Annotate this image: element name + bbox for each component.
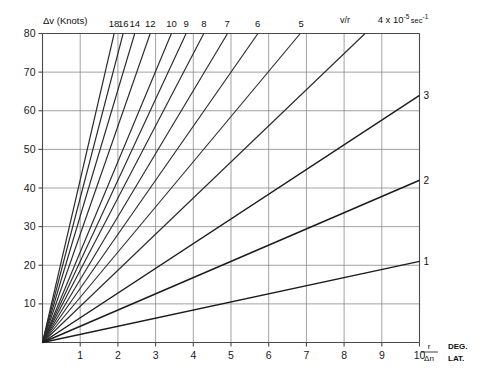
units-suffix: sec bbox=[411, 16, 423, 25]
top-line-label-12: 12 bbox=[145, 18, 156, 29]
x-tick-label: 9 bbox=[379, 349, 385, 361]
top-line-label-7: 7 bbox=[225, 18, 230, 29]
top-line-label-16: 16 bbox=[118, 18, 129, 29]
right-line-label-1: 1 bbox=[424, 256, 430, 267]
x-tick-label: 4 bbox=[190, 349, 196, 361]
y-tick-label: 50 bbox=[24, 143, 36, 155]
top-line-label-8: 8 bbox=[201, 18, 206, 29]
y-tick-label: 60 bbox=[24, 104, 36, 116]
x-axis-symbol-bottom: Δn bbox=[424, 354, 434, 363]
x-tick-label: 5 bbox=[228, 349, 234, 361]
top-line-label-10: 10 bbox=[166, 18, 177, 29]
x-axis-unit-bottom: LAT. bbox=[448, 354, 464, 363]
y-tick-label: 30 bbox=[24, 220, 36, 232]
units-exponent: -5 bbox=[404, 13, 410, 20]
vr-annotation: v/r bbox=[340, 15, 350, 25]
x-tick-label: 6 bbox=[266, 349, 272, 361]
x-tick-label: 2 bbox=[115, 349, 121, 361]
units-prefix: 4 x 10 bbox=[378, 14, 404, 25]
top-line-label-9: 9 bbox=[183, 18, 188, 29]
right-line-label-3: 3 bbox=[424, 90, 430, 101]
right-line-label-2: 2 bbox=[424, 175, 430, 186]
top-line-label-14: 14 bbox=[130, 18, 141, 29]
y-tick-label: 40 bbox=[24, 182, 36, 194]
y-axis-label: Δv (Knots) bbox=[43, 15, 87, 26]
x-tick-label: 8 bbox=[341, 349, 347, 361]
x-axis-unit-top: DEG. bbox=[448, 342, 468, 351]
x-tick-label: 3 bbox=[153, 349, 159, 361]
y-tick-label: 10 bbox=[24, 297, 36, 309]
x-tick-label: 1 bbox=[77, 349, 83, 361]
top-line-label-6: 6 bbox=[255, 18, 260, 29]
nomogram-chart: 1020304050607080 12345678910 18161412109… bbox=[0, 0, 487, 378]
chart-background bbox=[0, 0, 487, 378]
x-axis-symbol-top: r bbox=[428, 342, 431, 351]
y-tick-label: 80 bbox=[24, 27, 36, 39]
top-line-label-5: 5 bbox=[298, 18, 303, 29]
y-tick-label: 70 bbox=[24, 66, 36, 78]
chart-figure: 1020304050607080 12345678910 18161412109… bbox=[0, 0, 487, 378]
x-tick-label: 7 bbox=[303, 349, 309, 361]
y-tick-label: 20 bbox=[24, 259, 36, 271]
units-exponent-2: -1 bbox=[423, 13, 429, 20]
